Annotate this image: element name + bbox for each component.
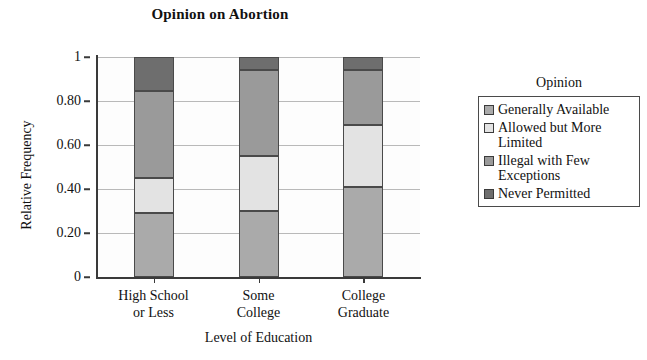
bar-stack[interactable] [343,57,383,277]
legend: Opinion Generally AvailableAllowed but M… [478,75,640,207]
y-axis-tick-label: 0.60 [57,137,82,153]
bar-segment[interactable] [134,178,174,213]
y-axis-tick-mark [84,100,90,102]
plot-area [97,57,420,277]
x-axis-tick-mark [259,277,261,283]
legend-item-label: Illegal with Few Exceptions [498,153,635,183]
y-axis-tick-label: 0.20 [57,225,82,241]
x-axis-title: Level of Education [97,330,420,346]
legend-swatch-icon [484,189,494,199]
legend-swatch-icon [484,105,494,115]
y-axis-tick-label: 0 [74,269,81,285]
y-axis-title: Relative Frequency [19,75,35,275]
legend-swatch-icon [484,123,494,133]
legend-item[interactable]: Generally Available [484,102,635,117]
bar-stack[interactable] [134,57,174,277]
bar-segment[interactable] [343,70,383,125]
y-axis-tick-label: 1 [74,49,81,65]
x-axis-category-label: CollegeGraduate [298,287,428,321]
legend-item-label: Generally Available [498,102,609,117]
bar-segment[interactable] [239,57,279,70]
y-axis-tick-mark [84,276,90,278]
y-axis-tick-mark [84,56,90,58]
x-axis-category-label-line: Graduate [298,304,428,321]
y-axis-tick-labels: 00.200.400.600.801 [34,57,90,277]
legend-box: Generally AvailableAllowed but More Limi… [478,96,640,207]
legend-item-label: Allowed but More Limited [498,120,635,150]
y-axis-tick-label: 0.40 [57,181,82,197]
y-axis-tick-mark [84,232,90,234]
bar-segment[interactable] [343,57,383,70]
x-axis-tick-mark [154,277,156,283]
y-axis-tick-mark [84,144,90,146]
legend-title: Opinion [478,75,640,91]
bar-segment[interactable] [239,211,279,277]
y-axis-line [96,55,98,279]
x-axis-category-label-line: College [298,287,428,304]
legend-item-label: Never Permitted [498,186,590,201]
legend-item[interactable]: Illegal with Few Exceptions [484,153,635,183]
bar-stack[interactable] [239,57,279,277]
legend-swatch-icon [484,156,494,166]
chart-figure: Opinion on Abortion Relative Frequency 0… [0,0,647,360]
bar-segment[interactable] [134,57,174,91]
y-axis-tick-mark [84,188,90,190]
bar-segment[interactable] [239,156,279,211]
x-axis-tick-mark [363,277,365,283]
bar-segment[interactable] [134,213,174,277]
bar-segment[interactable] [343,125,383,187]
chart-title: Opinion on Abortion [0,6,440,23]
legend-item[interactable]: Allowed but More Limited [484,120,635,150]
y-axis-tick-label: 0.80 [57,93,82,109]
legend-item[interactable]: Never Permitted [484,186,635,201]
bar-segment[interactable] [134,91,174,178]
bar-segment[interactable] [239,70,279,156]
bar-segment[interactable] [343,187,383,277]
